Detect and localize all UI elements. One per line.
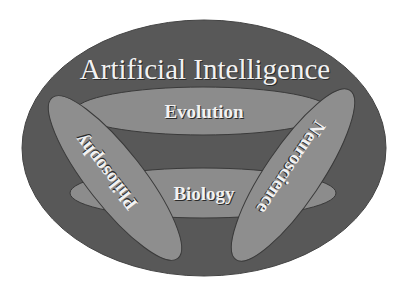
- svg-text:Artificial Intelligence: Artificial Intelligence: [80, 53, 330, 85]
- biology-label: Biology: [173, 183, 235, 204]
- evolution-label: Evolution: [164, 101, 244, 122]
- ai-label: Artificial Intelligence: [80, 53, 330, 85]
- svg-text:Evolution: Evolution: [164, 101, 244, 122]
- ai-venn-diagram: Artificial Intelligence Artificial Intel…: [0, 0, 407, 292]
- svg-text:Biology: Biology: [173, 183, 235, 204]
